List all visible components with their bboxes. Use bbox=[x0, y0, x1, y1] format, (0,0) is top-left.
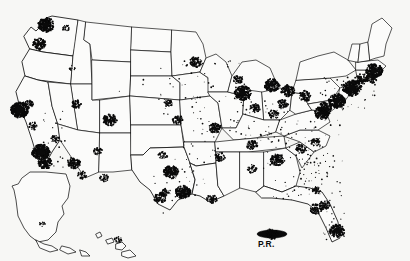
population-dot bbox=[81, 172, 83, 174]
population-dot bbox=[326, 175, 328, 177]
population-dot bbox=[37, 147, 38, 148]
population-dot bbox=[163, 198, 164, 199]
population-dot bbox=[379, 65, 381, 67]
population-dot bbox=[39, 162, 41, 164]
population-dot bbox=[158, 99, 159, 100]
population-dot bbox=[32, 122, 33, 123]
population-dot bbox=[215, 128, 216, 129]
population-dot bbox=[327, 153, 328, 154]
population-dot bbox=[177, 124, 178, 125]
population-dot bbox=[11, 109, 13, 111]
population-dot bbox=[320, 116, 321, 117]
population-dot bbox=[285, 121, 286, 122]
population-dot bbox=[14, 112, 15, 113]
population-dot bbox=[287, 194, 288, 195]
population-dot bbox=[93, 152, 94, 153]
population-dot bbox=[367, 79, 368, 80]
population-dot bbox=[96, 154, 97, 155]
population-dot bbox=[326, 200, 327, 201]
population-dot bbox=[319, 162, 321, 164]
population-dot bbox=[313, 144, 315, 146]
population-dot bbox=[219, 156, 220, 157]
population-dot bbox=[184, 145, 185, 146]
population-dot bbox=[73, 160, 74, 161]
population-dot bbox=[193, 96, 194, 97]
population-dot bbox=[319, 110, 320, 111]
population-dot bbox=[325, 135, 326, 136]
population-dot bbox=[57, 161, 59, 163]
population-dot bbox=[332, 234, 334, 236]
population-dot bbox=[176, 117, 178, 119]
population-dot bbox=[77, 165, 78, 166]
population-dot bbox=[350, 91, 351, 92]
population-dot bbox=[322, 94, 323, 95]
population-dot bbox=[306, 178, 307, 179]
population-dot bbox=[326, 105, 327, 106]
population-dot bbox=[106, 123, 108, 125]
population-dot bbox=[316, 108, 317, 109]
population-dot bbox=[114, 238, 116, 240]
population-dot bbox=[340, 102, 342, 104]
population-dot bbox=[42, 150, 43, 151]
population-dot bbox=[175, 120, 177, 122]
population-dot bbox=[264, 85, 265, 86]
population-dot bbox=[52, 21, 54, 23]
population-dot bbox=[332, 228, 333, 229]
population-dot bbox=[242, 87, 244, 89]
population-dot bbox=[23, 115, 26, 118]
population-dot bbox=[333, 230, 335, 232]
population-dot bbox=[277, 112, 279, 114]
population-dot bbox=[343, 81, 344, 82]
population-dot bbox=[363, 82, 364, 83]
population-dot bbox=[176, 124, 177, 125]
population-dot bbox=[345, 91, 347, 93]
population-dot bbox=[269, 115, 270, 116]
population-dot bbox=[245, 114, 246, 115]
population-dot bbox=[288, 196, 290, 198]
population-dot bbox=[316, 190, 317, 191]
population-dot bbox=[333, 99, 335, 101]
population-dot bbox=[254, 165, 255, 166]
population-dot bbox=[178, 78, 180, 80]
population-dot bbox=[325, 103, 327, 105]
population-dot bbox=[70, 157, 72, 159]
population-dot bbox=[69, 162, 71, 164]
population-dot bbox=[197, 57, 199, 59]
population-dot bbox=[317, 212, 319, 214]
population-dot bbox=[265, 112, 266, 113]
population-dot bbox=[51, 163, 53, 165]
population-dot bbox=[318, 187, 319, 188]
population-dot bbox=[315, 188, 317, 190]
population-dot bbox=[367, 80, 369, 82]
population-dot bbox=[336, 234, 337, 235]
population-dot bbox=[378, 67, 380, 69]
population-dot bbox=[253, 104, 254, 105]
population-dot bbox=[158, 194, 159, 195]
population-dot bbox=[56, 137, 57, 138]
population-dot bbox=[200, 118, 202, 120]
population-dot bbox=[260, 134, 262, 136]
population-dot bbox=[330, 111, 331, 112]
population-dot bbox=[263, 167, 264, 168]
puerto-rico-label: P.R. bbox=[258, 240, 275, 249]
population-dot bbox=[30, 102, 32, 104]
population-dot bbox=[50, 137, 52, 139]
population-dot bbox=[73, 167, 75, 169]
population-dot bbox=[251, 108, 252, 109]
population-dot bbox=[75, 100, 76, 101]
population-dot bbox=[255, 107, 256, 108]
population-dot bbox=[62, 157, 64, 159]
population-dot bbox=[250, 145, 251, 146]
population-dot bbox=[280, 154, 281, 155]
population-dot bbox=[285, 104, 287, 106]
population-dot bbox=[255, 171, 256, 172]
population-dot bbox=[254, 112, 256, 114]
population-dot bbox=[204, 107, 205, 108]
population-dot bbox=[105, 181, 106, 182]
population-dot bbox=[249, 88, 250, 89]
population-dot bbox=[211, 124, 213, 126]
population-dot bbox=[72, 165, 74, 167]
population-dot bbox=[372, 79, 373, 80]
metro-core-blob bbox=[348, 85, 356, 92]
population-dot bbox=[179, 181, 181, 183]
